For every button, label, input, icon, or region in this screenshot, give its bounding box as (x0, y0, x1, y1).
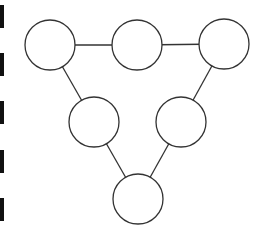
node-middle-right (156, 97, 206, 147)
node-bottom (113, 174, 163, 224)
node-top-middle (112, 20, 162, 70)
node-middle-left (69, 97, 119, 147)
graph-diagram (0, 0, 263, 239)
nodes-group (25, 19, 249, 224)
node-top-left (25, 20, 75, 70)
node-top-right (199, 19, 249, 69)
